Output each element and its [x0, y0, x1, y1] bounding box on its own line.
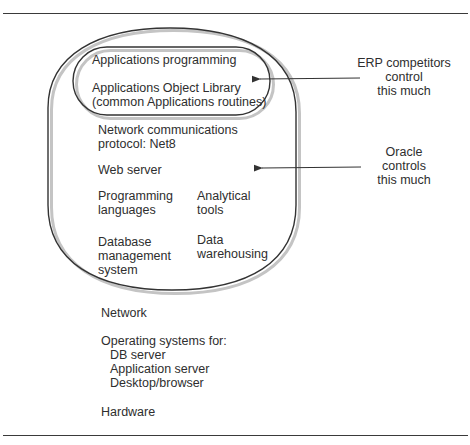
web-server-label: Web server — [98, 163, 162, 178]
oracle-annotation-line-3: this much — [344, 173, 464, 188]
network-protocol-label-2: protocol: Net8 — [98, 137, 176, 152]
applications-programming-label: Applications programming — [92, 53, 237, 68]
common-routines-label: (common Applications routines) — [92, 95, 266, 110]
data-warehousing-label-1: Data — [197, 233, 223, 248]
applications-object-library-label: Applications Object Library — [92, 81, 241, 96]
programming-languages-label-2: languages — [98, 203, 156, 218]
network-protocol-label-1: Network communications — [98, 123, 238, 138]
programming-languages-label-1: Programming — [98, 189, 173, 204]
erp-annotation-line-1: ERP competitors — [344, 56, 464, 71]
analytical-tools-label-2: tools — [197, 203, 223, 218]
os-item-desktop-browser: Desktop/browser — [110, 376, 204, 391]
os-item-application-server: Application server — [110, 362, 209, 377]
operating-systems-title: Operating systems for: — [101, 334, 227, 349]
erp-annotation-line-2: control — [344, 70, 464, 85]
oracle-annotation-line-2: controls — [344, 159, 464, 174]
network-label: Network — [101, 306, 147, 321]
analytical-tools-label-1: Analytical — [197, 189, 251, 204]
data-warehousing-label-2: warehousing — [197, 247, 268, 262]
oracle-annotation-line-1: Oracle — [344, 145, 464, 160]
hardware-label: Hardware — [101, 405, 155, 420]
dbms-label-1: Database — [98, 235, 152, 250]
erp-annotation-line-3: this much — [344, 84, 464, 99]
dbms-label-2: management — [98, 249, 171, 264]
os-item-db-server: DB server — [110, 348, 166, 363]
dbms-label-3: system — [98, 263, 138, 278]
